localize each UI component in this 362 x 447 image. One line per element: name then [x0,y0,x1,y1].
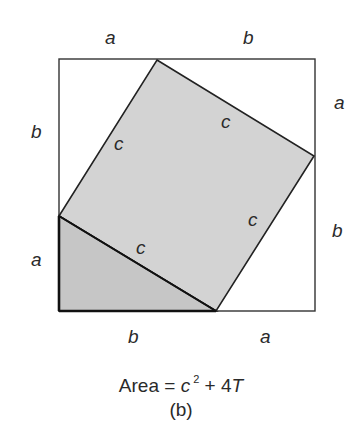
label-c-left: c [114,134,124,153]
label-top-b: b [243,28,254,47]
label-right-b: b [332,221,343,240]
label-c-right: c [248,210,258,229]
label-left-a: a [31,250,42,269]
formula-prefix: Area = [119,375,181,396]
label-c-bottom: c [136,238,146,257]
formula-c: c [181,375,191,396]
label-bottom-b: b [128,327,139,346]
figure-sublabel: (b) [0,399,362,421]
area-formula: Area = c2 + 4T [0,373,362,397]
label-c-top: c [221,112,231,131]
formula-T: T [232,375,244,396]
label-right-a: a [334,93,345,112]
formula-plus-4: + 4 [199,375,231,396]
label-top-a: a [105,28,116,47]
label-left-b: b [31,122,42,141]
label-bottom-a: a [260,327,271,346]
